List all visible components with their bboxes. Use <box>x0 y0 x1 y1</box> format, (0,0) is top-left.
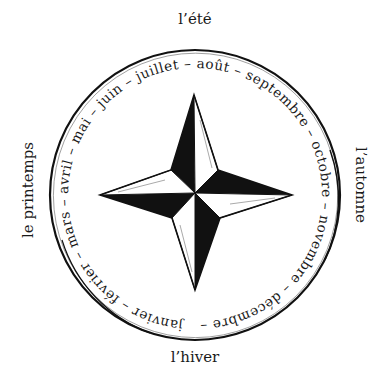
compass-star-icon <box>100 95 292 290</box>
seasons-diagram: janvier – février – mars – avril – mai –… <box>0 0 389 374</box>
season-label-winter: l’hiver <box>171 348 220 366</box>
season-label-spring: le printemps <box>19 142 37 238</box>
season-label-autumn: l’automne <box>352 147 370 223</box>
season-label-summer: l’été <box>178 10 211 28</box>
